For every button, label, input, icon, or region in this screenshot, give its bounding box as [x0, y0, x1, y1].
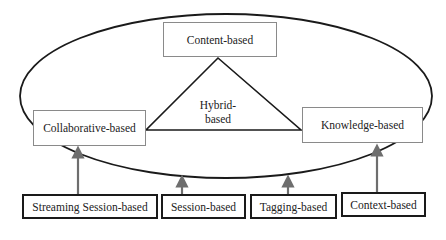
hybrid-based-label: Hybrid- based	[188, 98, 248, 126]
content-based-label: Content-based	[187, 34, 253, 46]
collaborative-based-label: Collaborative-based	[43, 122, 136, 134]
session-based-node: Session-based	[161, 194, 246, 219]
knowledge-based-label: Knowledge-based	[321, 119, 404, 131]
context-based-node: Context-based	[341, 192, 426, 217]
knowledge-based-node: Knowledge-based	[302, 107, 423, 143]
tagging-based-node: Tagging-based	[250, 194, 337, 219]
tagging-based-label: Tagging-based	[260, 201, 328, 213]
content-based-node: Content-based	[163, 22, 277, 57]
streaming-session-based-label: Streaming Session-based	[32, 201, 147, 213]
context-based-label: Context-based	[350, 199, 416, 211]
collaborative-based-node: Collaborative-based	[33, 110, 146, 146]
hybrid-label-line2: based	[188, 112, 248, 126]
hybrid-label-line1: Hybrid-	[188, 98, 248, 112]
session-based-label: Session-based	[171, 201, 236, 213]
streaming-session-based-node: Streaming Session-based	[22, 194, 158, 219]
